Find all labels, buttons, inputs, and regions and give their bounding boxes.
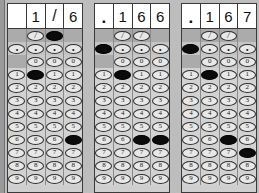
bubble-0-empty[interactable]: 0 — [152, 57, 169, 67]
bubble-cell-c1-8[interactable]: 8 — [182, 159, 201, 172]
bubble-0-empty[interactable]: 0 — [133, 57, 150, 67]
written-answer-box-1[interactable] — [8, 4, 27, 28]
bubble-4-empty[interactable]: 4 — [46, 109, 63, 119]
bubble-2-empty[interactable]: 2 — [8, 83, 25, 93]
bubble-2-empty[interactable]: 2 — [220, 83, 237, 93]
bubble-6-empty[interactable]: 6 — [8, 135, 25, 145]
bubble-5-empty[interactable]: 5 — [182, 122, 199, 132]
bubble-cell-c1-3[interactable]: 3 — [182, 94, 201, 107]
bubble-7-empty[interactable]: 7 — [114, 148, 131, 158]
bubble-cell-c1-9[interactable]: 9 — [182, 172, 201, 185]
written-answer-box-1[interactable]: . — [182, 4, 201, 28]
bubble-cell-c1-7[interactable]: 7 — [8, 146, 27, 159]
bubble-1-empty[interactable]: 1 — [239, 70, 256, 80]
bubble-cell-c4-0[interactable]: 0 — [238, 55, 256, 68]
bubble-cell-c2-0[interactable]: 0 — [201, 55, 220, 68]
bubble-5-empty[interactable]: 5 — [46, 122, 63, 132]
bubble-1-filled[interactable]: 1 — [201, 70, 218, 80]
bubble-8-empty[interactable]: 8 — [114, 161, 131, 171]
bubble-cell-c3-6[interactable]: 6 — [220, 133, 239, 146]
bubble-cell-c4-8[interactable]: 8 — [64, 159, 82, 172]
bubble-9-empty[interactable]: 9 — [46, 174, 63, 184]
bubble-cell-c2-3[interactable]: 3 — [114, 94, 133, 107]
written-answer-box-4[interactable]: 7 — [238, 4, 256, 28]
bubble-dot-empty[interactable]: . — [133, 44, 150, 54]
bubble-cell-c3-8[interactable]: 8 — [220, 159, 239, 172]
bubble-7-empty[interactable]: 7 — [182, 148, 199, 158]
bubble-3-empty[interactable]: 3 — [182, 96, 199, 106]
bubble-4-empty[interactable]: 4 — [201, 109, 218, 119]
written-answer-box-3[interactable]: 6 — [133, 4, 152, 28]
bubble-cell-c3-1[interactable]: 1 — [46, 68, 65, 81]
bubble-cell-c1-2[interactable]: 2 — [95, 81, 114, 94]
bubble-8-empty[interactable]: 8 — [152, 161, 169, 171]
bubble-cell-c1-7[interactable]: 7 — [95, 146, 114, 159]
bubble-cell-c1-5[interactable]: 5 — [182, 120, 201, 133]
bubble-3-empty[interactable]: 3 — [133, 96, 150, 106]
bubble-cell-c3-3[interactable]: 3 — [220, 94, 239, 107]
bubble-8-empty[interactable]: 8 — [239, 161, 256, 171]
bubble-4-empty[interactable]: 4 — [133, 109, 150, 119]
bubble-cell-c3-0[interactable]: 0 — [133, 55, 152, 68]
bubble-8-empty[interactable]: 8 — [201, 161, 218, 171]
bubble-cell-c4-5[interactable]: 5 — [238, 120, 256, 133]
bubble-cell-c3-2[interactable]: 2 — [46, 81, 65, 94]
bubble-dot-empty[interactable]: . — [65, 44, 82, 54]
bubble-cell-c4-dot[interactable]: . — [151, 42, 169, 55]
bubble-cell-c3-4[interactable]: 4 — [133, 107, 152, 120]
bubble-dot-empty[interactable]: . — [152, 44, 169, 54]
bubble-cell-c4-1[interactable]: 1 — [238, 68, 256, 81]
bubble-cell-c3-6[interactable]: 6 — [46, 133, 65, 146]
bubble-cell-c2-6[interactable]: 6 — [27, 133, 46, 146]
bubble-9-empty[interactable]: 9 — [65, 174, 82, 184]
bubble-cell-c2-9[interactable]: 9 — [201, 172, 220, 185]
bubble-slash-empty[interactable]: / — [114, 31, 131, 41]
bubble-cell-c3-0[interactable]: 0 — [46, 55, 65, 68]
bubble-cell-c3-9[interactable]: 9 — [220, 172, 239, 185]
bubble-3-empty[interactable]: 3 — [220, 96, 237, 106]
bubble-cell-c2-5[interactable]: 5 — [27, 120, 46, 133]
bubble-5-empty[interactable]: 5 — [95, 122, 112, 132]
bubble-cell-c2-6[interactable]: 6 — [201, 133, 220, 146]
bubble-cell-c3-9[interactable]: 9 — [133, 172, 152, 185]
bubble-3-empty[interactable]: 3 — [65, 96, 82, 106]
bubble-cell-c2-1[interactable]: 1 — [201, 68, 220, 81]
written-answer-box-3[interactable]: 6 — [220, 4, 239, 28]
bubble-cell-c3-8[interactable]: 8 — [46, 159, 65, 172]
bubble-2-empty[interactable]: 2 — [133, 83, 150, 93]
bubble-8-empty[interactable]: 8 — [95, 161, 112, 171]
bubble-slash-empty[interactable]: / — [27, 31, 44, 41]
bubble-8-empty[interactable]: 8 — [8, 161, 25, 171]
bubble-cell-c4-dot[interactable]: . — [238, 42, 256, 55]
bubble-cell-c2-dot[interactable]: . — [27, 42, 46, 55]
bubble-cell-c1-3[interactable]: 3 — [95, 94, 114, 107]
bubble-7-filled[interactable]: 7 — [239, 148, 256, 158]
bubble-9-empty[interactable]: 9 — [133, 174, 150, 184]
bubble-3-empty[interactable]: 3 — [46, 96, 63, 106]
bubble-cell-c4-1[interactable]: 1 — [151, 68, 169, 81]
bubble-2-empty[interactable]: 2 — [46, 83, 63, 93]
bubble-cell-c2-dot[interactable]: . — [201, 42, 220, 55]
bubble-cell-c3-2[interactable]: 2 — [220, 81, 239, 94]
bubble-9-empty[interactable]: 9 — [152, 174, 169, 184]
bubble-7-empty[interactable]: 7 — [46, 148, 63, 158]
bubble-7-empty[interactable]: 7 — [152, 148, 169, 158]
bubble-7-empty[interactable]: 7 — [220, 148, 237, 158]
bubble-cell-c2-8[interactable]: 8 — [201, 159, 220, 172]
bubble-cell-c4-dot[interactable]: . — [64, 42, 82, 55]
written-answer-row[interactable]: 1/6 — [8, 4, 82, 29]
bubble-cell-c4-9[interactable]: 9 — [64, 172, 82, 185]
bubble-cell-c1-4[interactable]: 4 — [95, 107, 114, 120]
bubble-cell-c3-3[interactable]: 3 — [46, 94, 65, 107]
bubble-0-empty[interactable]: 0 — [46, 57, 63, 67]
bubble-cell-c1-dot[interactable]: . — [8, 42, 27, 55]
bubble-4-empty[interactable]: 4 — [27, 109, 44, 119]
bubble-cell-c3-5[interactable]: 5 — [133, 120, 152, 133]
bubble-dot-empty[interactable]: . — [239, 44, 256, 54]
bubble-1-empty[interactable]: 1 — [220, 70, 237, 80]
bubble-2-empty[interactable]: 2 — [114, 83, 131, 93]
bubble-5-empty[interactable]: 5 — [133, 122, 150, 132]
bubble-0-empty[interactable]: 0 — [201, 57, 218, 67]
bubble-cell-c1-2[interactable]: 2 — [182, 81, 201, 94]
bubble-7-empty[interactable]: 7 — [8, 148, 25, 158]
